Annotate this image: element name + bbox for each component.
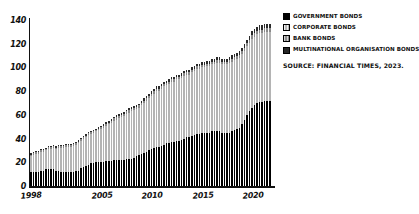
segment-government-bonds	[85, 166, 87, 186]
x-axis-tick-2015: 2015	[192, 190, 214, 200]
segment-government-bonds	[158, 147, 160, 186]
segment-government-bonds	[239, 128, 241, 186]
segment-government-bonds	[138, 155, 140, 186]
segment-government-bonds	[251, 108, 253, 186]
segment-corporate-bonds	[131, 111, 133, 158]
legend-item-0[interactable]: GOVERNMENT BONDS	[283, 12, 399, 21]
segment-corporate-bonds	[256, 34, 258, 103]
segment-government-bonds	[70, 172, 72, 186]
segment-government-bonds	[78, 171, 80, 186]
segment-government-bonds	[45, 169, 47, 186]
segment-government-bonds	[80, 168, 82, 186]
segment-government-bonds	[100, 162, 102, 186]
segment-government-bonds	[224, 133, 226, 186]
segment-government-bonds	[234, 130, 236, 186]
segment-corporate-bonds	[178, 79, 180, 141]
segment-government-bonds	[43, 171, 45, 186]
segment-government-bonds	[181, 140, 183, 186]
segment-government-bonds	[90, 163, 92, 186]
segment-government-bonds	[38, 172, 40, 186]
segment-corporate-bonds	[236, 59, 238, 129]
swatch-corporate-icon	[283, 24, 290, 31]
segment-government-bonds	[111, 161, 113, 186]
segment-corporate-bonds	[259, 33, 261, 102]
segment-government-bonds	[266, 101, 268, 186]
segment-government-bonds	[206, 133, 208, 186]
segment-corporate-bonds	[251, 39, 253, 108]
y-axis-tick-80: 80	[15, 87, 26, 96]
segment-corporate-bonds	[194, 71, 196, 135]
x-axis-line	[29, 186, 275, 188]
segment-corporate-bonds	[188, 75, 190, 138]
segment-government-bonds	[108, 161, 110, 186]
segment-government-bonds	[229, 133, 231, 186]
segment-corporate-bonds	[121, 117, 123, 160]
segment-corporate-bonds	[88, 135, 90, 165]
segment-corporate-bonds	[221, 64, 223, 133]
segment-government-bonds	[141, 154, 143, 186]
segment-corporate-bonds	[226, 64, 228, 133]
segment-corporate-bonds	[244, 51, 246, 120]
segment-government-bonds	[133, 158, 135, 186]
segment-corporate-bonds	[33, 155, 35, 172]
segment-government-bonds	[83, 167, 85, 186]
segment-government-bonds	[156, 147, 158, 186]
segment-corporate-bonds	[93, 133, 95, 164]
segment-corporate-bonds	[63, 148, 65, 172]
segment-corporate-bonds	[43, 152, 45, 171]
segment-government-bonds	[68, 172, 70, 186]
segment-government-bonds	[168, 143, 170, 186]
segment-corporate-bonds	[196, 69, 198, 134]
segment-government-bonds	[75, 171, 77, 186]
segment-government-bonds	[143, 153, 145, 186]
segment-corporate-bonds	[246, 46, 248, 115]
segment-corporate-bonds	[58, 148, 60, 171]
segment-government-bonds	[259, 102, 261, 186]
y-axis-tick-140: 140	[10, 16, 26, 25]
y-axis-tick-labels: 020406080100120140	[0, 0, 26, 214]
segment-government-bonds	[269, 101, 271, 186]
segment-corporate-bonds	[116, 120, 118, 160]
segment-government-bonds	[196, 134, 198, 186]
segment-corporate-bonds	[171, 82, 173, 142]
segment-corporate-bonds	[239, 58, 241, 128]
legend-label-2: BANK BONDS	[293, 36, 335, 42]
source-note: SOURCE: FINANCIAL TIMES, 2023.	[283, 62, 404, 69]
segment-corporate-bonds	[105, 126, 107, 162]
segment-corporate-bonds	[65, 147, 67, 172]
legend-item-1[interactable]: CORPORATE BONDS	[283, 23, 399, 32]
plot-area	[30, 20, 272, 186]
segment-corporate-bonds	[103, 128, 105, 162]
segment-corporate-bonds	[113, 121, 115, 160]
segment-government-bonds	[105, 161, 107, 186]
legend-item-3[interactable]: MULTINATIONAL ORGANISATION BONDS	[283, 46, 399, 55]
segment-corporate-bonds	[216, 63, 218, 132]
segment-corporate-bonds	[158, 91, 160, 147]
swatch-bank-icon	[283, 35, 290, 42]
segment-government-bonds	[98, 162, 100, 186]
segment-corporate-bonds	[68, 147, 70, 172]
y-axis-tick-100: 100	[10, 63, 26, 72]
segment-corporate-bonds	[73, 146, 75, 172]
legend-item-2[interactable]: BANK BONDS	[283, 34, 399, 43]
segment-government-bonds	[254, 105, 256, 186]
x-axis-tick-2005: 2005	[91, 190, 113, 200]
segment-government-bonds	[264, 101, 266, 186]
swatch-government-icon	[283, 13, 290, 20]
segment-corporate-bonds	[219, 63, 221, 132]
segment-government-bonds	[103, 162, 105, 186]
segment-corporate-bonds	[100, 129, 102, 162]
segment-government-bonds	[33, 172, 35, 186]
y-axis-tick-20: 20	[15, 158, 26, 167]
y-axis-tick-120: 120	[10, 39, 26, 48]
segment-government-bonds	[126, 159, 128, 186]
segment-government-bonds	[191, 136, 193, 186]
segment-government-bonds	[249, 111, 251, 186]
segment-government-bonds	[35, 172, 37, 186]
segment-corporate-bonds	[83, 139, 85, 167]
segment-corporate-bonds	[40, 152, 42, 171]
segment-government-bonds	[231, 131, 233, 186]
segment-government-bonds	[241, 124, 243, 186]
segment-corporate-bonds	[111, 123, 113, 161]
segment-corporate-bonds	[249, 43, 251, 112]
